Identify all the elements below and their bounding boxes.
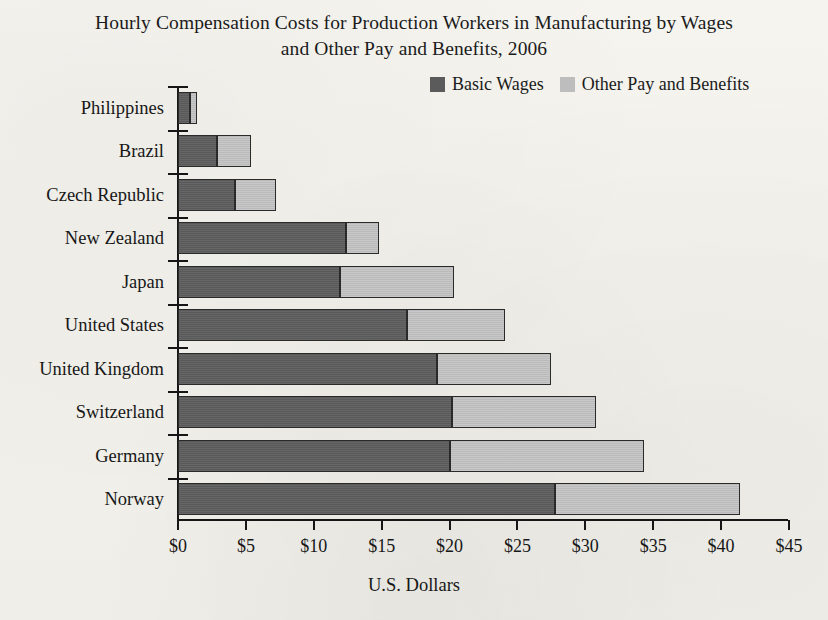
y-axis-category-label: Czech Republic	[46, 185, 164, 205]
bar-segment-basic-wages	[178, 179, 235, 211]
bar-segment-basic-wages	[178, 135, 217, 167]
x-axis-tick	[313, 520, 315, 530]
x-axis-tick-label: $20	[436, 536, 463, 557]
bar-segment-basic-wages	[178, 483, 555, 515]
y-axis-tick	[168, 217, 188, 219]
bar-segment-basic-wages	[178, 396, 452, 428]
bar-segment-basic-wages	[178, 309, 407, 341]
plot-area: $0$5$10$15$20$25$30$35$40$45	[177, 86, 788, 521]
bar-segment-other-pay-and-benefits	[340, 266, 454, 298]
y-axis-tick	[168, 260, 188, 262]
x-axis-tick-label: $40	[708, 536, 735, 557]
x-axis-tick	[516, 520, 518, 530]
x-axis-tick	[652, 520, 654, 530]
bar-segment-other-pay-and-benefits	[450, 440, 644, 472]
y-axis-tick	[168, 304, 188, 306]
y-axis-category-label: Germany	[95, 446, 164, 466]
bar-segment-basic-wages	[178, 440, 450, 472]
x-axis-tick	[720, 520, 722, 530]
bar-segment-other-pay-and-benefits	[555, 483, 740, 515]
x-axis-tick-label: $25	[504, 536, 531, 557]
x-axis-tick-label: $30	[572, 536, 599, 557]
bar-segment-basic-wages	[178, 222, 346, 254]
bar-segment-basic-wages	[178, 92, 190, 124]
y-axis-tick	[168, 478, 188, 480]
y-axis-tick	[168, 347, 188, 349]
bar-segment-other-pay-and-benefits	[407, 309, 505, 341]
y-axis-tick	[168, 173, 188, 175]
x-axis-tick	[788, 520, 790, 530]
bar-segment-other-pay-and-benefits	[235, 179, 276, 211]
y-axis-category-label: New Zealand	[65, 228, 164, 248]
stacked-bar-chart: Hourly Compensation Costs for Production…	[0, 0, 828, 620]
y-axis-category-label: Switzerland	[76, 402, 164, 422]
x-axis-tick-label: $10	[300, 536, 327, 557]
x-axis-tick	[449, 520, 451, 530]
chart-title-line-2: and Other Pay and Benefits, 2006	[0, 36, 828, 62]
y-axis-top-cap-tick	[168, 86, 188, 88]
x-axis-tick-label: $5	[237, 536, 255, 557]
x-axis-tick	[245, 520, 247, 530]
y-axis-category-label: United States	[65, 315, 164, 335]
chart-title: Hourly Compensation Costs for Production…	[0, 10, 828, 62]
bar-segment-other-pay-and-benefits	[217, 135, 251, 167]
y-axis-tick	[168, 391, 188, 393]
bar-segment-basic-wages	[178, 266, 340, 298]
x-axis-tick-label: $15	[368, 536, 395, 557]
x-axis-tick	[381, 520, 383, 530]
y-axis-category-label: Norway	[104, 489, 164, 509]
bar-segment-other-pay-and-benefits	[437, 353, 551, 385]
y-axis-tick	[168, 130, 188, 132]
y-axis-tick	[168, 434, 188, 436]
y-axis-category-label: Japan	[122, 272, 164, 292]
x-axis-tick-label: $35	[640, 536, 667, 557]
x-axis-tick	[177, 520, 179, 530]
chart-title-line-1: Hourly Compensation Costs for Production…	[95, 12, 733, 33]
x-axis-tick	[584, 520, 586, 530]
bar-segment-other-pay-and-benefits	[190, 92, 197, 124]
y-axis-category-label: Brazil	[119, 141, 164, 161]
x-axis-title: U.S. Dollars	[0, 575, 828, 596]
y-axis-category-label: United Kingdom	[39, 359, 164, 379]
bar-segment-other-pay-and-benefits	[346, 222, 379, 254]
x-axis-line	[177, 519, 788, 521]
bar-segment-basic-wages	[178, 353, 437, 385]
bar-segment-other-pay-and-benefits	[452, 396, 596, 428]
x-axis-tick-label: $45	[776, 536, 803, 557]
x-axis-tick-label: $0	[169, 536, 187, 557]
y-axis-category-label: Philippines	[81, 98, 164, 118]
